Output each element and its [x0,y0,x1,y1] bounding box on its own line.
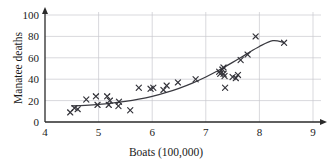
y-axis-tick-label: 100 [23,9,40,21]
chart-page: 456789 020406080100 Boats (100,000) Mana… [0,0,333,162]
x-axis-tick-label: 5 [96,126,102,138]
x-axis-tick-label: 6 [149,126,155,138]
manatee-deaths-scatter-chart: 456789 020406080100 Boats (100,000) Mana… [0,0,333,162]
y-axis-title: Manatee deaths [12,32,24,104]
y-axis-tick-label: 0 [34,116,40,128]
chart-background [0,0,333,162]
x-axis-tick-label: 8 [257,126,263,138]
y-axis-tick-label: 40 [28,73,40,85]
y-axis-tick-label: 80 [28,30,40,42]
y-axis-tick-label: 60 [28,52,40,64]
x-axis-title: Boats (100,000) [129,146,203,159]
x-axis-tick-label: 9 [310,126,316,138]
x-axis-tick-label: 4 [42,126,48,138]
y-axis-tick-label: 20 [28,95,40,107]
x-axis-tick-label: 7 [203,126,209,138]
